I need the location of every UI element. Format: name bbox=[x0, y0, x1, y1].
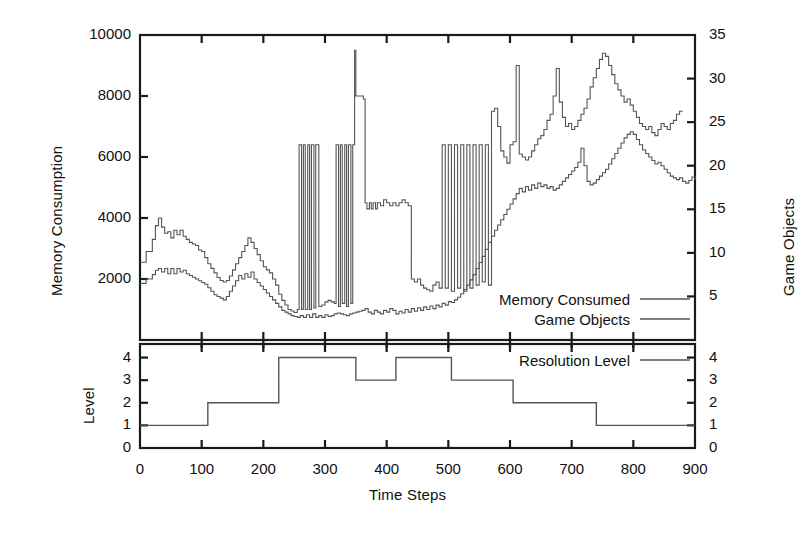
figure-root: 200040006000800010000 5101520253035 0123… bbox=[0, 0, 801, 535]
legend-item-resolution-level: Resolution Level bbox=[430, 352, 630, 369]
x-axis-title: Time Steps bbox=[369, 486, 446, 503]
ytick-right-upper-1: 10 bbox=[709, 243, 749, 260]
ytick-right-lower-3: 3 bbox=[709, 370, 749, 387]
legend-item-memory-consumed: Memory Consumed bbox=[430, 291, 630, 308]
ytick-right-upper-5: 30 bbox=[709, 69, 749, 86]
y-axis-right-upper-title: Game Objects bbox=[780, 198, 797, 296]
y-axis-left-upper-title: Memory Consumption bbox=[48, 146, 65, 296]
ytick-right-upper-4: 25 bbox=[709, 112, 749, 129]
ytick-right-upper-6: 35 bbox=[709, 25, 749, 42]
ytick-right-upper-0: 5 bbox=[709, 286, 749, 303]
ytick-left-lower-3: 3 bbox=[91, 370, 131, 387]
ytick-left-upper-3: 8000 bbox=[31, 86, 131, 103]
ytick-left-upper-2: 6000 bbox=[31, 147, 131, 164]
ytick-right-lower-2: 2 bbox=[709, 393, 749, 410]
xtick-7: 700 bbox=[542, 460, 602, 477]
data-curves bbox=[140, 50, 695, 425]
xtick-8: 800 bbox=[603, 460, 663, 477]
ytick-right-upper-2: 15 bbox=[709, 199, 749, 216]
ytick-left-lower-2: 2 bbox=[91, 393, 131, 410]
ytick-left-upper-4: 10000 bbox=[31, 25, 131, 42]
xtick-4: 400 bbox=[357, 460, 417, 477]
legend-item-game-objects: Game Objects bbox=[430, 311, 630, 328]
game-objects-curve bbox=[140, 132, 695, 318]
ytick-right-lower-1: 1 bbox=[709, 415, 749, 432]
axes-frames bbox=[140, 35, 695, 448]
ytick-left-lower-4: 4 bbox=[91, 348, 131, 365]
xtick-3: 300 bbox=[295, 460, 355, 477]
y-axis-left-lower-title: Level bbox=[80, 387, 97, 424]
xtick-6: 600 bbox=[480, 460, 540, 477]
ytick-left-upper-0: 2000 bbox=[31, 269, 131, 286]
ytick-right-upper-3: 20 bbox=[709, 156, 749, 173]
xtick-5: 500 bbox=[418, 460, 478, 477]
ytick-right-lower-0: 0 bbox=[709, 438, 749, 455]
legend-line-samples bbox=[640, 299, 690, 360]
ytick-left-lower-1: 1 bbox=[91, 415, 131, 432]
memory-consumed-curve bbox=[140, 50, 683, 312]
xtick-0: 0 bbox=[110, 460, 170, 477]
axis-ticks bbox=[140, 35, 695, 448]
ytick-right-lower-4: 4 bbox=[709, 348, 749, 365]
xtick-1: 100 bbox=[172, 460, 232, 477]
ytick-left-upper-1: 4000 bbox=[31, 208, 131, 225]
xtick-2: 200 bbox=[233, 460, 293, 477]
ytick-left-lower-0: 0 bbox=[91, 438, 131, 455]
xtick-9: 900 bbox=[665, 460, 725, 477]
